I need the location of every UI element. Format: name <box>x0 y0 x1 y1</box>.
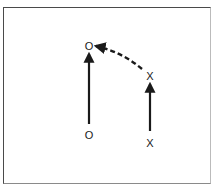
player-o-start: O <box>85 129 94 141</box>
x-pass-dashed-arrow <box>96 46 142 69</box>
player-x-end: X <box>146 70 154 82</box>
player-o-end: O <box>85 40 94 52</box>
player-x-start: X <box>146 137 154 149</box>
play-diagram: O O X X <box>0 0 212 186</box>
